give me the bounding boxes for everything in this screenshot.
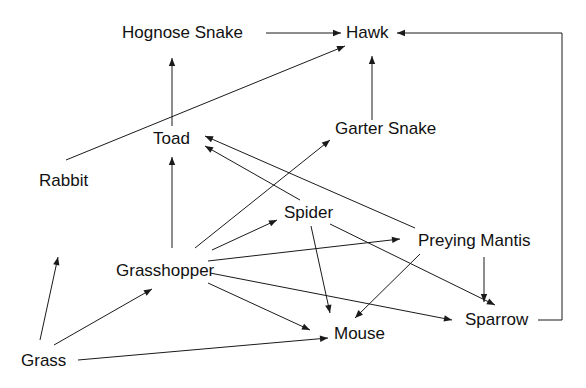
edges-layer	[0, 0, 586, 388]
edge-grasshopper-to-garter	[195, 140, 330, 248]
edge-rabbit-to-hawk	[66, 46, 345, 160]
edge-grass-to-mouse	[78, 338, 328, 360]
node-mantis: Preying Mantis	[418, 232, 530, 249]
edge-grasshopper-to-mouse	[208, 283, 310, 330]
edge-spider-to-toad	[205, 146, 300, 200]
food-web-diagram: Hognose SnakeHawkToadGarter SnakeRabbitS…	[0, 0, 586, 388]
edge-spider-to-mouse	[311, 226, 330, 313]
edge-grass-to-rabbit	[40, 257, 58, 340]
node-mouse: Mouse	[334, 325, 385, 342]
node-grass: Grass	[21, 352, 66, 369]
node-garter: Garter Snake	[335, 120, 436, 137]
edge-sparrow-to-hawk	[397, 33, 562, 320]
edge-grass-to-grasshopper	[54, 289, 152, 345]
node-hawk: Hawk	[346, 24, 389, 41]
node-hognose: Hognose Snake	[122, 24, 243, 41]
node-toad: Toad	[153, 130, 190, 147]
edge-grasshopper-to-sparrow	[210, 273, 452, 320]
edge-grasshopper-to-spider	[212, 220, 277, 250]
node-rabbit: Rabbit	[39, 172, 88, 189]
node-spider: Spider	[284, 204, 333, 221]
edge-mantis-to-mouse	[355, 254, 420, 318]
node-grasshopper: Grasshopper	[116, 262, 214, 279]
node-sparrow: Sparrow	[465, 311, 528, 328]
edge-grasshopper-to-mantis	[208, 239, 400, 261]
